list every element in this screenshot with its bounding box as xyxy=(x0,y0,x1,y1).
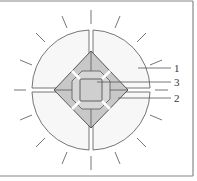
diagram-svg: 1 3 2 xyxy=(0,0,197,181)
diagram-frame: 1 3 2 xyxy=(0,0,197,181)
label-3: 3 xyxy=(174,76,180,88)
label-1: 1 xyxy=(174,62,180,74)
label-2: 2 xyxy=(174,92,180,104)
